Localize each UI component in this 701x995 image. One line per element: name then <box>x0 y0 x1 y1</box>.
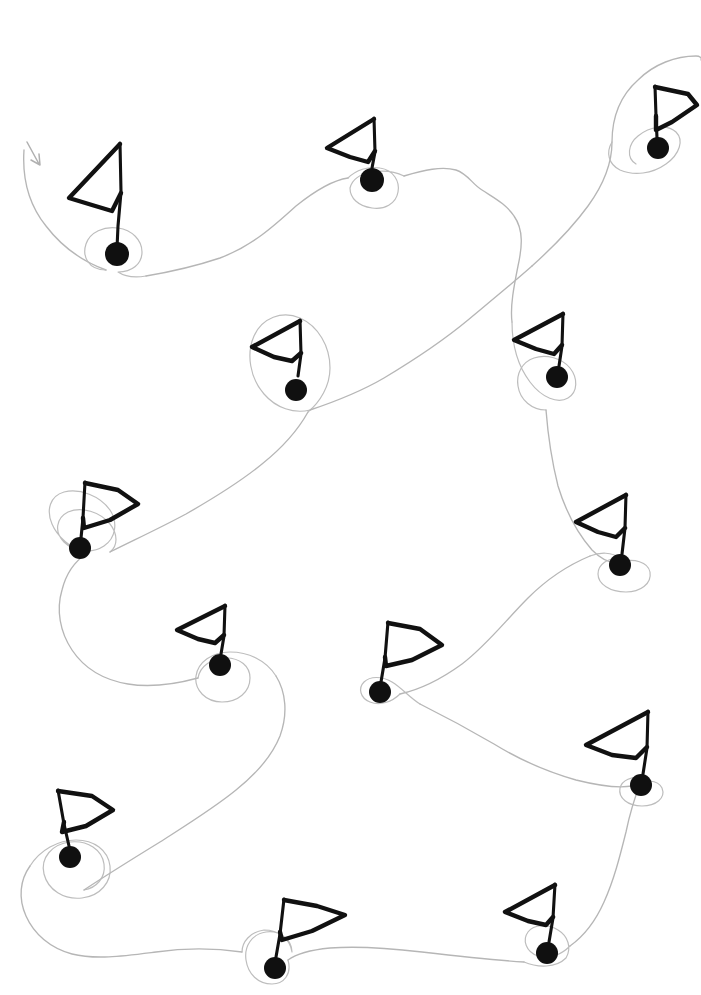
flag-pennant-10 <box>586 712 648 758</box>
flag-marker-3[interactable] <box>647 86 697 159</box>
route-segment-8-to-6 <box>59 554 198 686</box>
flag-pennant-2 <box>327 119 375 162</box>
waypoint-dot-5[interactable] <box>546 366 568 388</box>
route-segment-6-to-4 <box>110 412 308 552</box>
route-segment-7-to-9 <box>400 556 590 694</box>
route-segment-2-to-3 <box>404 168 521 322</box>
flag-pennant-1 <box>69 144 121 211</box>
flag-pennant-13 <box>505 885 555 925</box>
flag-marker-10[interactable] <box>586 711 652 796</box>
flag-marker-11[interactable] <box>58 790 113 868</box>
flag-pole-7 <box>622 494 626 554</box>
flag-pole-11 <box>58 790 69 846</box>
flag-marker-5[interactable] <box>514 313 568 388</box>
waypoint-dot-8[interactable] <box>209 654 231 676</box>
start-arrow-icon <box>27 142 40 165</box>
flag-pole-13 <box>549 884 555 942</box>
waypoint-dot-7[interactable] <box>609 554 631 576</box>
route-segment-5-to-7 <box>546 410 620 563</box>
flag-pole-5 <box>559 313 563 366</box>
flag-pennant-5 <box>514 314 563 354</box>
flag-pennant-11 <box>58 791 113 832</box>
flag-marker-12[interactable] <box>264 899 345 979</box>
sketch-canvas: Hand-drawn Flag Route Sketch Hand-drawn … <box>0 0 701 995</box>
flag-pennant-7 <box>576 495 626 537</box>
route-segment-12-to-11 <box>21 866 242 957</box>
waypoint-dot-10[interactable] <box>630 774 652 796</box>
route-segment-10-to-13 <box>570 778 642 946</box>
flag-route-sketch <box>0 0 701 995</box>
route-segment-start-to-1 <box>24 150 106 270</box>
route-segment-13-to-12 <box>288 947 524 962</box>
flag-marker-8[interactable] <box>177 605 231 676</box>
waypoint-dot-11[interactable] <box>59 846 81 868</box>
flag-pennant-6 <box>83 483 138 528</box>
route-loop-3 <box>609 127 680 173</box>
flag-pennant-12 <box>280 900 345 940</box>
route-segment-11-to-8 <box>84 676 285 890</box>
route-segment-9-to-10 <box>420 704 632 787</box>
flag-marker-9[interactable] <box>369 622 442 703</box>
flag-pennant-3 <box>655 87 697 130</box>
route-path-group <box>21 56 701 984</box>
route-loop-8 <box>196 652 276 702</box>
flag-pole-9 <box>381 622 388 682</box>
waypoint-dot-1[interactable] <box>105 242 129 266</box>
flag-pole-2 <box>372 118 375 168</box>
flag-pennant-9 <box>385 623 442 666</box>
flag-marker-1[interactable] <box>69 143 129 266</box>
waypoint-dot-6[interactable] <box>69 537 91 559</box>
route-segment-4-to-3 <box>310 266 532 410</box>
waypoint-dot-9[interactable] <box>369 681 391 703</box>
waypoint-dot-2[interactable] <box>360 168 384 192</box>
route-segment-1-to-2 <box>146 178 348 276</box>
flag-pole-8 <box>221 605 225 654</box>
flag-pole-10 <box>643 711 648 774</box>
route-segment-to-3-upper <box>532 56 701 266</box>
flag-pole-4 <box>298 320 301 376</box>
waypoint-dot-12[interactable] <box>264 957 286 979</box>
waypoint-dot-3[interactable] <box>647 137 669 159</box>
waypoint-dot-13[interactable] <box>536 942 558 964</box>
waypoint-dot-4[interactable] <box>285 379 307 401</box>
flag-marker-6[interactable] <box>69 482 138 559</box>
flag-pole-12 <box>276 899 284 957</box>
flag-pennant-8 <box>177 606 225 643</box>
